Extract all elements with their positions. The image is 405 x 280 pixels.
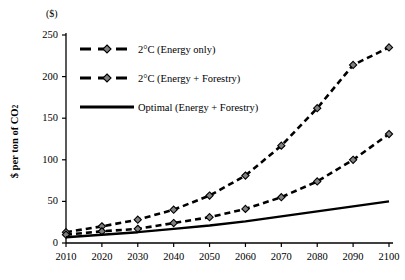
series-1 xyxy=(62,130,392,238)
legend-swatch-marker-1 xyxy=(103,74,111,82)
legend-swatch-marker-0 xyxy=(103,45,111,53)
chart-figure: ($) $ per ton of CO2 050100150200250 201… xyxy=(0,0,405,280)
x-tick-label: 2020 xyxy=(82,252,122,262)
x-tick-label: 2090 xyxy=(333,252,373,262)
y-axis-unit-label: ($) xyxy=(46,8,58,19)
x-tick-label: 2040 xyxy=(154,252,194,262)
x-tick-label: 2070 xyxy=(261,252,301,262)
y-tick-label: 250 xyxy=(28,30,58,40)
y-tick-label: 0 xyxy=(28,238,58,248)
plot-area xyxy=(0,0,405,280)
x-tick-label: 2080 xyxy=(297,252,337,262)
y-tick-label: 100 xyxy=(28,155,58,165)
y-axis-title-subscript: 2 xyxy=(11,105,20,109)
y-axis-title-text: $ per ton of CO xyxy=(9,108,20,178)
series-line-1 xyxy=(66,134,389,235)
y-tick-label: 200 xyxy=(28,72,58,82)
legend-marks xyxy=(80,45,134,107)
series-2 xyxy=(66,201,389,237)
x-tick-label: 2060 xyxy=(225,252,265,262)
data-point xyxy=(242,205,249,212)
data-point xyxy=(134,216,141,223)
data-point xyxy=(170,206,177,213)
x-tick-label: 2050 xyxy=(190,252,230,262)
data-point xyxy=(170,219,177,226)
legend-item-label-2: Optimal (Energy + Forestry) xyxy=(138,102,258,113)
y-tick-label: 50 xyxy=(28,196,58,206)
y-axis-title: $ per ton of CO2 xyxy=(9,72,20,212)
legend-item-label-1: 2°C (Energy + Forestry) xyxy=(138,73,240,84)
legend-item-label-0: 2°C (Energy only) xyxy=(138,44,216,55)
x-tick-label: 2100 xyxy=(369,252,405,262)
x-tick-label: 2030 xyxy=(118,252,158,262)
y-tick-label: 150 xyxy=(28,113,58,123)
series-line-2 xyxy=(66,201,389,237)
data-point xyxy=(206,214,213,221)
x-tick-label: 2010 xyxy=(46,252,86,262)
